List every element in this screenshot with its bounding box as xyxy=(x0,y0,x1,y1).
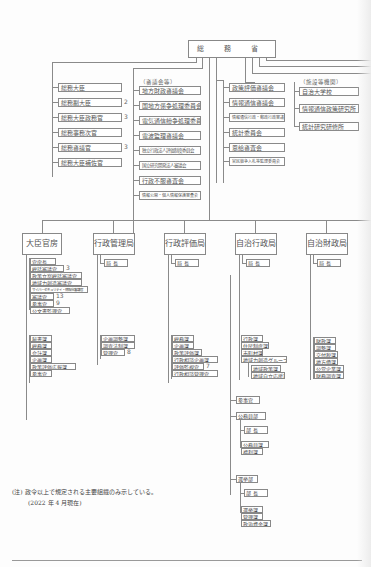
facilities-heading: （施設等機関） xyxy=(300,78,342,86)
division-item: 行政相談企画課 xyxy=(172,356,218,363)
head-item: 部 長 xyxy=(244,489,268,497)
bureau-local-admin: 自治行政局 xyxy=(235,233,277,255)
division-item: 財政課 xyxy=(314,337,336,344)
division-item: 財務調査課 xyxy=(314,372,344,379)
minister-item: 総務大臣 xyxy=(58,83,122,92)
division-item: 市町村課 xyxy=(241,349,263,356)
division-item: 行政課 xyxy=(241,335,263,342)
sub-division-item: 地域自立応援課 xyxy=(251,372,285,379)
division-item: 行政相談管理官 xyxy=(172,370,218,377)
facility-item: 自治大学校 xyxy=(299,87,359,96)
division-item: 選挙課 xyxy=(241,506,263,513)
connector xyxy=(245,58,246,82)
councils-heading: （審議会等） xyxy=(140,78,176,86)
division-item: 公営企業課 xyxy=(314,365,344,372)
connector xyxy=(252,58,253,73)
ministry-node: 総 務 省 xyxy=(188,40,276,58)
division-item: 交付税課 xyxy=(314,351,338,358)
division-item: 地域力創造グループ xyxy=(241,356,287,363)
division-item: 福利課 xyxy=(241,448,263,455)
footnote: (注) 政令以上で規定される主要組織のみ示している。 xyxy=(12,487,157,496)
division-item: 評価監視官 xyxy=(172,363,204,370)
division-item: 管理課 xyxy=(241,513,263,520)
connector xyxy=(252,73,371,74)
bottom-rule xyxy=(12,560,362,561)
department-node: 選挙部 xyxy=(236,475,258,483)
division-item: 住民制度課 xyxy=(241,342,269,349)
section-item: 総括審議官 xyxy=(30,265,64,272)
head-item: 局 長 xyxy=(175,259,199,267)
council-item: 情報通信審議会 xyxy=(229,98,285,107)
connector xyxy=(266,60,371,61)
division-item: 公務員課 xyxy=(241,441,269,448)
minister-item: 総務大臣政務官 xyxy=(58,113,122,122)
date-note: (2022 年 4 月現在) xyxy=(28,498,82,507)
council-item: 官民競争入札等監理委員会 xyxy=(229,157,285,166)
division-item: 地方債課 xyxy=(314,358,338,365)
connector xyxy=(52,62,197,63)
connector xyxy=(52,62,53,177)
section-item: 参事官 xyxy=(30,300,54,307)
section-item: 地域力創造審議官 xyxy=(30,279,82,286)
section-item: 官房長 xyxy=(30,258,56,265)
minister-item: 総務事務次官 xyxy=(58,128,122,137)
division-item: 政治資金課 xyxy=(241,520,271,527)
count: 3 xyxy=(124,143,128,150)
council-item: 情報通信行政・郵政行政審議会 xyxy=(229,113,285,122)
head-item: 局 長 xyxy=(317,259,341,267)
division-item: 総務課 xyxy=(172,335,194,342)
section-item: 政策立案総括審議官 xyxy=(30,272,82,279)
council-item: 電気通信紛争処理委員会 xyxy=(139,116,201,125)
connector xyxy=(259,58,260,66)
division-item: 政策評価課 xyxy=(172,349,202,356)
division-item: 管理官 xyxy=(101,349,125,356)
council-item: 国立研究開発法人審議会 xyxy=(139,161,201,170)
page-edge-shadow xyxy=(357,0,371,567)
council-item: 恩給審査会 xyxy=(229,143,285,152)
connector xyxy=(216,58,217,183)
minister-item: 総務審議官 xyxy=(58,143,122,152)
connector xyxy=(259,66,371,67)
division-item: 企画調整課 xyxy=(101,335,135,342)
bureau-local-finance: 自治財政局 xyxy=(306,233,348,255)
connector xyxy=(133,68,203,69)
connector xyxy=(133,68,134,240)
minister-item: 総務大臣補佐官 xyxy=(58,158,122,167)
bureau-admin-management: 行政管理局 xyxy=(93,233,135,255)
council-item: 独立行政法人評価制度委員会 xyxy=(139,146,201,155)
sub-division-item: 地域政策課 xyxy=(251,365,281,372)
council-item: 情報公開・個人情報保護審査会 xyxy=(139,191,201,200)
head-item: 局 長 xyxy=(246,259,270,267)
division-item: 調整課 xyxy=(314,344,336,351)
council-item: 国地方係争処理委員会 xyxy=(139,101,201,110)
division-item: 秘書課 xyxy=(30,335,52,342)
head-item: 部 長 xyxy=(244,426,268,434)
count: 2 xyxy=(124,98,128,105)
head-item: 局 長 xyxy=(104,259,128,267)
bureau-bus-line xyxy=(42,220,371,221)
division-item: 総務課 xyxy=(30,342,52,349)
division-item: 会計課 xyxy=(30,349,52,356)
bureau-minister-secretariat: 大臣官房 xyxy=(22,233,62,255)
division-item: 企画課 xyxy=(30,356,52,363)
council-item: 行政不服審査会 xyxy=(139,176,201,185)
council-item: 統計委員会 xyxy=(229,128,285,137)
division-item: 政策評価広報課 xyxy=(30,363,76,370)
division-item: 参事官 xyxy=(30,370,52,377)
connector xyxy=(202,58,203,68)
bureau-admin-evaluation: 行政評価局 xyxy=(164,233,206,255)
section-item: 公文書監理官 xyxy=(30,307,70,314)
extra-item: 参事官 xyxy=(236,396,260,404)
minister-item: 総務副大臣 xyxy=(58,98,122,107)
count: 3 xyxy=(124,113,128,120)
department-node: 公務員部 xyxy=(236,412,266,420)
connector xyxy=(209,58,210,218)
facility-item: 統計研究研修所 xyxy=(299,122,359,131)
council-item: 政策評価審議会 xyxy=(229,83,285,92)
section-item: 審議官 xyxy=(30,293,54,300)
council-item: 電波監理審議会 xyxy=(139,131,201,140)
division-item: 企画課 xyxy=(172,342,194,349)
council-item: 地方財政審議会 xyxy=(139,86,201,95)
facility-item: 情報通信政策研究所 xyxy=(299,104,359,113)
